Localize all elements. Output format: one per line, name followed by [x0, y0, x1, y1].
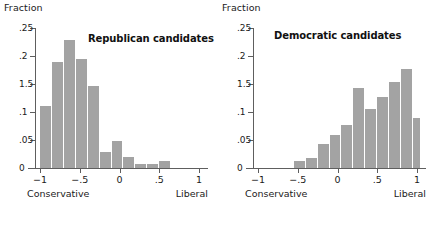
x-endpoint-label-conservative: Conservative — [27, 188, 89, 199]
histogram-bar — [159, 161, 171, 168]
y-tick-label: .2 — [237, 51, 244, 61]
histogram-bar — [64, 40, 76, 168]
panel-republican: Fraction Republican candidates .25.21.5.… — [0, 0, 217, 227]
histogram-bar — [341, 125, 353, 168]
x-tick-label: −1 — [251, 174, 265, 185]
x-endpoint-label-liberal: Liberal — [176, 188, 208, 199]
y-axis-label: Fraction — [222, 2, 261, 13]
histogram-bar — [52, 62, 64, 168]
x-endpoint-label-liberal: Liberal — [394, 188, 426, 199]
y-tick-label: .25 — [19, 23, 26, 33]
histogram-bar — [401, 69, 413, 168]
x-tick-label: .5 — [155, 174, 164, 185]
histogram-bar — [40, 106, 52, 168]
x-tick-label: −1 — [33, 174, 47, 185]
x-tick-label: 0 — [334, 174, 340, 185]
histogram-bar — [306, 158, 318, 168]
y-tick-label: .05 — [19, 135, 26, 145]
histogram-bar — [353, 88, 365, 168]
x-tick-mark — [199, 168, 200, 173]
histogram-bar — [330, 135, 342, 168]
figure-root: Fraction Republican candidates .25.21.5.… — [0, 0, 435, 227]
plot-area-democratic — [254, 28, 421, 168]
x-tick-label: .5 — [373, 174, 382, 185]
x-tick-label: 0 — [116, 174, 122, 185]
x-tick-label: 1 — [414, 174, 420, 185]
histogram-bar — [413, 118, 421, 168]
y-axis-label: Fraction — [4, 2, 43, 13]
y-tick-label: .25 — [237, 23, 244, 33]
panel-democratic: Fraction Democratic candidates .25.21.5.… — [218, 0, 435, 227]
x-tick-mark — [40, 168, 41, 173]
x-tick-mark — [120, 168, 121, 173]
x-ticks: −1−.50.51 — [0, 168, 217, 190]
histogram-bar — [318, 144, 330, 168]
histogram-bar — [76, 59, 88, 168]
y-tick-label: .1 — [237, 107, 244, 117]
histogram-bar — [294, 161, 306, 168]
y-tick-label: 1.5 — [19, 79, 26, 89]
x-tick-mark — [338, 168, 339, 173]
histogram-bar — [100, 152, 112, 168]
histogram-bar — [112, 141, 124, 168]
x-tick-mark — [80, 168, 81, 173]
x-tick-label: −.5 — [289, 174, 306, 185]
histogram-bar — [365, 109, 377, 168]
x-tick-mark — [159, 168, 160, 173]
histogram-bar — [389, 82, 401, 168]
y-tick-label: 1.5 — [237, 79, 244, 89]
x-endpoint-label-conservative: Conservative — [245, 188, 307, 199]
histogram-bar — [88, 86, 100, 168]
y-tick-label: .05 — [237, 135, 244, 145]
y-tick-label: .2 — [19, 51, 26, 61]
x-tick-label: −.5 — [71, 174, 88, 185]
x-tick-mark — [298, 168, 299, 173]
x-tick-mark — [258, 168, 259, 173]
x-tick-mark — [377, 168, 378, 173]
histogram-bar — [123, 157, 135, 168]
x-tick-label: 1 — [196, 174, 202, 185]
x-tick-mark — [417, 168, 418, 173]
histogram-bar — [377, 97, 389, 168]
plot-area-republican — [36, 28, 203, 168]
y-tick-label: .1 — [19, 107, 26, 117]
x-ticks: −1−.50.51 — [218, 168, 435, 190]
